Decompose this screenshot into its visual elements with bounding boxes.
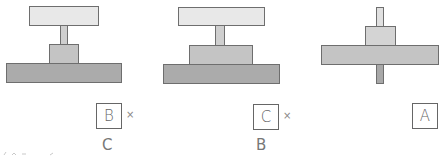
figure-1-correction: C — [102, 136, 112, 154]
figure-2-stem — [215, 25, 225, 46]
figure-2-top-plate — [178, 7, 265, 26]
figure-3-middle-block — [365, 26, 396, 46]
figure-1-bottom-plate — [6, 63, 122, 83]
figure-3-answer-label: A — [420, 107, 430, 125]
figure-1-stem — [60, 25, 68, 45]
figure-3-plate — [321, 45, 439, 65]
figure-2-answer-label: C — [261, 108, 271, 126]
figure-1-wrong-mark: × — [126, 109, 134, 120]
figure-3-answer-box: A — [412, 103, 438, 129]
figure-1-middle-block — [49, 44, 79, 64]
figure-2-answer-box: C — [253, 104, 279, 130]
figure-3-bottom-stem — [376, 64, 384, 84]
figure-2-wrong-mark: × — [283, 110, 291, 121]
figure-1-answer-box: B — [96, 103, 122, 129]
cutoff-handwriting — [0, 150, 70, 156]
figure-1-answer-label: B — [104, 107, 114, 125]
figure-2-middle-block — [189, 45, 253, 65]
figure-1-top-plate — [29, 6, 99, 26]
figure-2-bottom-plate — [163, 64, 280, 84]
figure-3-top-stem — [376, 7, 384, 27]
figure-2-correction: B — [256, 136, 266, 154]
